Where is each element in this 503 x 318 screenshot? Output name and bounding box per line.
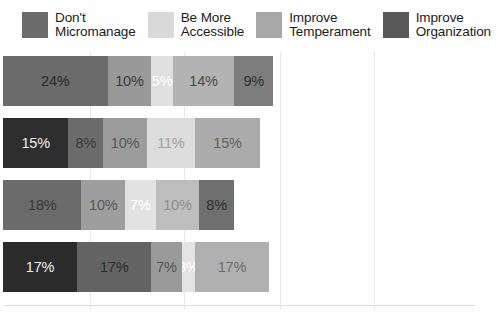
bar-segment-label: 3% bbox=[182, 259, 195, 275]
legend-item-label: Improve Organization bbox=[416, 11, 491, 39]
bar-segment[interactable]: 18% bbox=[3, 180, 81, 230]
bar-segment[interactable]: 10% bbox=[156, 180, 200, 230]
stacked-bar-row: 18%10%7%10%8% bbox=[3, 180, 234, 230]
bar-segment-label: 9% bbox=[243, 73, 264, 89]
bar-segment[interactable]: 17% bbox=[77, 242, 151, 292]
bar-segment-label: 10% bbox=[89, 197, 117, 213]
bar-segment[interactable]: 9% bbox=[234, 56, 273, 106]
chart-legend: Don't Micromanage Be More Accessible Imp… bbox=[0, 0, 503, 50]
x-axis-line bbox=[3, 305, 475, 306]
bar-segment[interactable]: 15% bbox=[3, 118, 68, 168]
bar-segment[interactable]: 10% bbox=[108, 56, 152, 106]
bar-segment[interactable]: 17% bbox=[3, 242, 77, 292]
legend-item-label: Don't Micromanage bbox=[55, 11, 136, 39]
bar-segment-label: 7% bbox=[156, 259, 177, 275]
bar-segment[interactable]: 7% bbox=[151, 242, 182, 292]
bar-segment-label: 5% bbox=[152, 73, 173, 89]
bar-segment-label: 17% bbox=[100, 259, 128, 275]
bar-segment[interactable]: 10% bbox=[81, 180, 125, 230]
bar-segment-label: 11% bbox=[157, 135, 184, 151]
legend-swatch-icon bbox=[256, 12, 282, 38]
bar-segment-label: 17% bbox=[218, 259, 246, 275]
bar-segment[interactable]: 10% bbox=[103, 118, 147, 168]
bar-segment[interactable]: 8% bbox=[68, 118, 103, 168]
legend-item-improve-temperament: Improve Temperament bbox=[256, 11, 370, 39]
legend-swatch-icon bbox=[22, 12, 48, 38]
bar-segment-label: 18% bbox=[28, 197, 56, 213]
bar-segment[interactable]: 17% bbox=[195, 242, 269, 292]
legend-item-be-more-accessible: Be More Accessible bbox=[148, 11, 245, 39]
legend-swatch-icon bbox=[383, 12, 409, 38]
stacked-bar-group: 24%10%5%14%9%15%8%10%11%15%18%10%7%10%8%… bbox=[3, 52, 500, 310]
stacked-bar-row: 17%17%7%3%17% bbox=[3, 242, 269, 292]
bar-segment[interactable]: 14% bbox=[173, 56, 234, 106]
bar-segment[interactable]: 5% bbox=[151, 56, 173, 106]
legend-item-label: Improve Temperament bbox=[289, 11, 370, 39]
chart-plot-area: 24%10%5%14%9%15%8%10%11%15%18%10%7%10%8%… bbox=[3, 52, 500, 310]
bar-segment-label: 24% bbox=[41, 73, 69, 89]
bar-segment-label: 10% bbox=[115, 73, 143, 89]
bar-segment[interactable]: 24% bbox=[3, 56, 108, 106]
bar-segment[interactable]: 7% bbox=[125, 180, 156, 230]
bar-segment-label: 17% bbox=[26, 259, 54, 275]
bar-segment-label: 14% bbox=[189, 73, 217, 89]
legend-item-improve-organization: Improve Organization bbox=[383, 11, 491, 39]
bar-segment-label: 10% bbox=[163, 197, 191, 213]
bar-segment-label: 15% bbox=[213, 135, 241, 151]
bar-segment-label: 10% bbox=[111, 135, 139, 151]
bar-segment[interactable]: 15% bbox=[195, 118, 260, 168]
legend-swatch-icon bbox=[148, 12, 174, 38]
stacked-bar-row: 24%10%5%14%9% bbox=[3, 56, 273, 106]
bar-segment[interactable]: 3% bbox=[182, 242, 195, 292]
bar-segment-label: 8% bbox=[206, 197, 227, 213]
bar-segment-label: 8% bbox=[76, 135, 97, 151]
legend-item-label: Be More Accessible bbox=[181, 11, 245, 39]
legend-item-dont-micromanage: Don't Micromanage bbox=[22, 11, 136, 39]
bar-segment-label: 7% bbox=[130, 197, 151, 213]
bar-segment-label: 15% bbox=[21, 135, 49, 151]
bar-segment[interactable]: 11% bbox=[147, 118, 195, 168]
stacked-bar-row: 15%8%10%11%15% bbox=[3, 118, 260, 168]
bar-segment[interactable]: 8% bbox=[199, 180, 234, 230]
